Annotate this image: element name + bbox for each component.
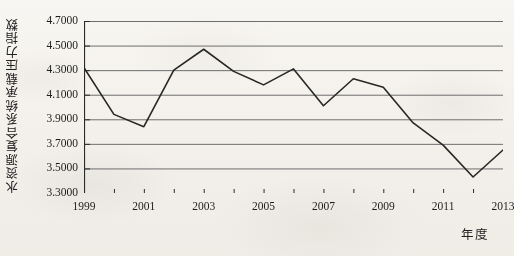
y-tick-label: 3.7000: [26, 138, 78, 150]
y-axis-tick-labels: 4.70004.50004.30004.10003.90003.70003.50…: [26, 0, 78, 256]
y-tick-label: 4.5000: [26, 40, 78, 52]
y-tick-label: 4.1000: [26, 89, 78, 101]
x-tick-label: 2003: [192, 201, 215, 213]
x-tick-label: 1999: [73, 201, 96, 213]
plot-svg: [84, 21, 503, 193]
data-series-line: [84, 49, 503, 177]
x-axis-title: 年度: [461, 224, 488, 243]
x-tick-label: 2013: [492, 201, 514, 213]
y-tick-label: 3.5000: [26, 163, 78, 175]
plot-area: [84, 21, 503, 193]
x-tick-label: 2011: [432, 201, 455, 213]
y-tick-label: 3.9000: [26, 114, 78, 126]
x-tick-label: 2009: [372, 201, 395, 213]
chart-figure: 水资源复合系统承载压力指数 4.70004.50004.30004.10003.…: [0, 0, 514, 256]
y-axis-title: 水资源复合系统承载压力指数: [2, 14, 24, 196]
x-tick-label: 2005: [252, 201, 275, 213]
y-tick-label: 3.3000: [26, 187, 78, 199]
y-axis-title-text: 水资源复合系统承载压力指数: [7, 17, 20, 193]
x-tick-label: 2001: [132, 201, 155, 213]
y-tick-label: 4.3000: [26, 64, 78, 76]
y-tick-label: 4.7000: [26, 15, 78, 27]
x-tick-label: 2007: [312, 201, 335, 213]
